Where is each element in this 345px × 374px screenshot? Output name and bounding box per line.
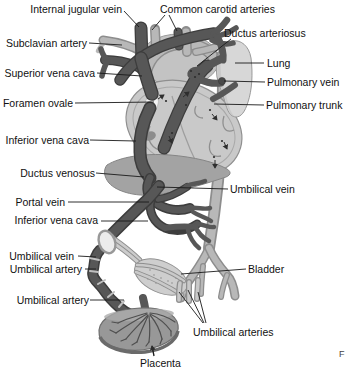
label-bladder: Bladder <box>248 263 284 275</box>
label-portal-vein: Portal vein <box>15 196 65 208</box>
placenta-shape <box>99 307 178 352</box>
label-foramen-ovale: Foramen ovale <box>3 97 73 109</box>
label-superior-vena-cava: Superior vena cava <box>5 67 95 79</box>
label-common-carotid-arteries: Common carotid arteries <box>160 3 275 15</box>
label-internal-jugular-vein: Internal jugular vein <box>30 3 122 15</box>
label-inferior-vena-cava-upper: Inferior vena cava <box>6 134 89 146</box>
label-inferior-vena-cava-lower: Inferior vena cava <box>15 214 98 226</box>
label-pulmonary-trunk: Pulmonary trunk <box>266 99 342 111</box>
label-lung: Lung <box>267 57 290 69</box>
label-pulmonary-vein: Pulmonary vein <box>267 76 339 88</box>
label-ductus-arteriosus: Ductus arteriosus <box>224 27 306 39</box>
label-umbilical-vein-right: Umbilical vein <box>230 183 295 195</box>
label-umbilical-artery-upper: Umbilical artery <box>10 263 82 275</box>
label-ductus-venosus: Ductus venosus <box>20 167 95 179</box>
figure-corner-mark: F <box>339 349 345 359</box>
label-placenta: Placenta <box>140 357 181 369</box>
label-umbilical-vein-left: Umbilical vein <box>9 250 74 262</box>
label-umbilical-artery-lower: Umbilical artery <box>17 294 89 306</box>
label-umbilical-arteries: Umbilical arteries <box>193 326 274 338</box>
fetal-circulation-figure: Internal jugular vein Common carotid art… <box>0 0 345 374</box>
label-subclavian-artery: Subclavian artery <box>6 37 87 49</box>
